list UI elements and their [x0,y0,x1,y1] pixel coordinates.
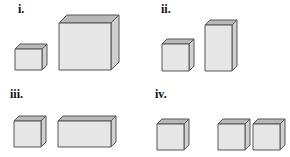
rectangular-prism [59,15,119,70]
prism-side-face [42,44,47,70]
prism-front-face [58,121,111,147]
prism-top-face [59,15,119,23]
prism-front-face [218,124,245,150]
prism-side-face [245,119,250,150]
prism-front-face [59,23,111,70]
prism-front-face [253,124,280,150]
rectangular-prism [218,119,250,150]
prism-side-face [280,119,285,150]
prism-top-face [58,116,116,121]
rectangular-prism [14,116,46,147]
rectangular-prism [205,20,237,71]
prism-side-face [232,20,237,71]
rectangular-prism [58,116,116,147]
rectangular-prism [157,119,189,150]
prism-front-face [15,49,42,70]
prism-side-face [111,15,119,70]
prism-front-face [162,44,189,71]
rectangular-prism [162,39,194,71]
rectangular-prism [253,119,285,150]
prism-side-face [184,119,189,150]
prism-front-face [157,124,184,150]
prism-side-face [41,116,46,147]
prism-side-face [189,39,194,71]
rectangular-prism [15,44,47,70]
box-diagram [0,0,290,157]
prism-side-face [111,116,116,147]
prism-front-face [205,25,232,71]
prism-front-face [14,121,41,147]
